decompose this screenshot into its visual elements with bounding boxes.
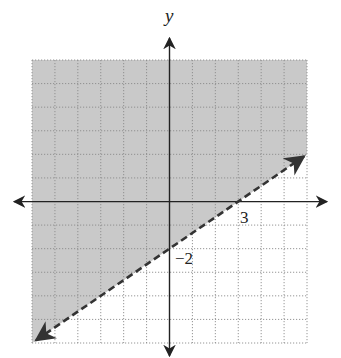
y-intercept-label: −2 bbox=[175, 249, 193, 268]
x-intercept-label: 3 bbox=[240, 208, 249, 227]
y-axis-label: y bbox=[163, 5, 174, 26]
graph-canvas: y 3 −2 bbox=[0, 0, 341, 358]
